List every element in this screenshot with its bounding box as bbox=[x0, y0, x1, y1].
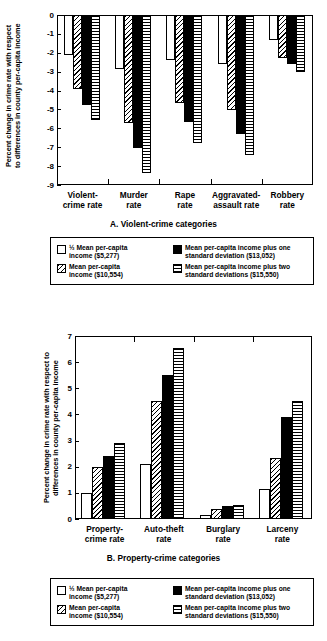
legend-grid-b: ½ Mean per-capita income ($5,277)Mean pe… bbox=[51, 579, 313, 625]
legend-label: Mean per-capita income plus one standard… bbox=[185, 244, 291, 260]
y-tick-label: -1 bbox=[47, 29, 57, 38]
legend-item-plus_one_sd: Mean per-capita income plus one standard… bbox=[173, 585, 311, 601]
bar bbox=[278, 15, 287, 58]
legend-item-mean: Mean per-capita income ($10,554) bbox=[57, 604, 169, 620]
y-tick-7: 7 bbox=[68, 331, 75, 341]
bar-group bbox=[211, 15, 262, 185]
x-category-label: Robbery rate bbox=[262, 190, 313, 211]
y-tick-4: 4 bbox=[68, 409, 75, 419]
bar bbox=[200, 515, 211, 519]
y-tick-label: -2 bbox=[47, 48, 57, 57]
legend-label: Mean per-capita income plus two standard… bbox=[185, 604, 290, 620]
y-tick-mark bbox=[75, 519, 79, 520]
bar bbox=[162, 375, 173, 519]
bar-group bbox=[108, 15, 159, 185]
y-tick-label: 4 bbox=[68, 410, 75, 419]
bar bbox=[115, 15, 124, 69]
bar bbox=[236, 15, 245, 134]
category-separator bbox=[262, 179, 263, 185]
x-axis-category-labels-a: Violent- crime rateMurder rateRape rateA… bbox=[57, 190, 313, 214]
bar bbox=[218, 15, 227, 64]
y-tick--9: -9 bbox=[47, 180, 57, 190]
y-tick-label: 3 bbox=[68, 436, 75, 445]
y-tick-label: 5 bbox=[68, 384, 75, 393]
y-tick-label: -8 bbox=[47, 162, 57, 171]
legend-swatch-diagonal-hatch-icon bbox=[57, 264, 66, 273]
y-tick--4: -4 bbox=[47, 86, 57, 96]
bar bbox=[82, 15, 91, 105]
bar bbox=[296, 15, 305, 72]
bar bbox=[166, 15, 175, 60]
bar bbox=[227, 15, 236, 110]
y-tick-2: 2 bbox=[68, 462, 75, 472]
y-tick-6: 6 bbox=[68, 357, 75, 367]
y-tick--8: -8 bbox=[47, 161, 57, 171]
bar-group bbox=[253, 336, 312, 519]
y-tick-label: -7 bbox=[47, 143, 57, 152]
y-tick-label: 0 bbox=[50, 11, 57, 20]
y-tick-0: 0 bbox=[68, 514, 75, 524]
legend-item-plus_one_sd: Mean per-capita income plus one standard… bbox=[173, 244, 311, 260]
legend-label: Mean per-capita income ($10,554) bbox=[69, 604, 123, 620]
y-tick--5: -5 bbox=[47, 104, 57, 114]
y-tick-label: -6 bbox=[47, 124, 57, 133]
bar-group bbox=[134, 336, 193, 519]
panel-b-caption: B. Property-crime categories bbox=[0, 553, 327, 563]
bar-group bbox=[75, 336, 134, 519]
panel-a-caption: A. Violent-crime categories bbox=[0, 219, 327, 229]
category-separator bbox=[159, 179, 160, 185]
x-category-label: Property- crime rate bbox=[75, 524, 134, 545]
y-tick-label: 1 bbox=[68, 488, 75, 497]
legend-label: ½ Mean per-capita income ($5,277) bbox=[69, 244, 127, 260]
bar bbox=[92, 467, 103, 519]
category-separator bbox=[134, 336, 135, 342]
bar bbox=[151, 401, 162, 519]
y-tick-label: -9 bbox=[47, 181, 57, 190]
y-tick-label: 7 bbox=[68, 332, 75, 341]
y-axis-label-a: Percent change in crime rate with respec… bbox=[4, 8, 24, 184]
legend-label: Mean per-capita income plus one standard… bbox=[185, 585, 291, 601]
y-tick-label: 2 bbox=[68, 462, 75, 471]
bar bbox=[124, 15, 133, 123]
bar bbox=[91, 15, 100, 120]
crime-rate-figure: Percent change in crime rate with respec… bbox=[0, 0, 327, 641]
legend-swatch-solid-black-icon bbox=[173, 586, 182, 595]
y-tick-label: -5 bbox=[47, 105, 57, 114]
y-tick--6: -6 bbox=[47, 123, 57, 133]
y-tick-1: 1 bbox=[68, 488, 75, 498]
bar bbox=[281, 417, 292, 519]
x-category-label: Larceny rate bbox=[253, 524, 312, 545]
bar bbox=[81, 493, 92, 519]
legend-grid-a: ½ Mean per-capita income ($5,277)Mean pe… bbox=[51, 238, 313, 284]
bar bbox=[233, 505, 244, 519]
y-tick--2: -2 bbox=[47, 48, 57, 58]
bar bbox=[140, 464, 151, 519]
legend-item-plus_two_sd: Mean per-capita income plus two standard… bbox=[173, 604, 311, 620]
bar bbox=[211, 509, 222, 519]
bar bbox=[193, 15, 202, 143]
y-tick-label: -4 bbox=[47, 86, 57, 95]
y-tick-label: -3 bbox=[47, 67, 57, 76]
legend-label: Mean per-capita income plus two standard… bbox=[185, 263, 290, 279]
legend-item-mean: Mean per-capita income ($10,554) bbox=[57, 263, 169, 279]
y-tick--7: -7 bbox=[47, 142, 57, 152]
category-separator bbox=[211, 179, 212, 185]
panel-property-crime: Percent change in crime rate with respec… bbox=[0, 300, 327, 641]
zero-axis-line bbox=[57, 15, 313, 16]
y-axis-label-b: Percent change in crime rate with respec… bbox=[42, 328, 62, 528]
category-separator bbox=[253, 336, 254, 342]
legend-item-half_mean: ½ Mean per-capita income ($5,277) bbox=[57, 244, 169, 260]
bar bbox=[245, 15, 254, 155]
y-tick-3: 3 bbox=[68, 436, 75, 446]
y-tick--1: -1 bbox=[47, 29, 57, 39]
bar-group bbox=[194, 336, 253, 519]
legend-item-half_mean: ½ Mean per-capita income ($5,277) bbox=[57, 585, 169, 601]
bar bbox=[103, 456, 114, 519]
bar bbox=[269, 15, 278, 40]
panel-violent-crime: Percent change in crime rate with respec… bbox=[0, 0, 327, 300]
bar bbox=[142, 15, 151, 173]
legend-a: ½ Mean per-capita income ($5,277)Mean pe… bbox=[50, 237, 314, 285]
legend-label: Mean per-capita income ($10,554) bbox=[69, 263, 123, 279]
legend-swatch-open-icon bbox=[57, 245, 66, 254]
x-axis-category-labels-b: Property- crime rateAuto-theft rateBurgl… bbox=[75, 524, 312, 548]
